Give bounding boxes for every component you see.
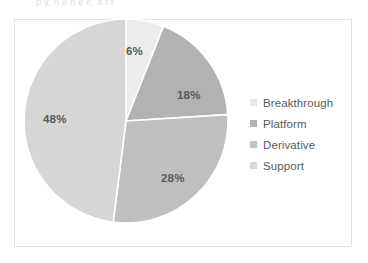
- legend-swatch-icon-support: [250, 162, 257, 169]
- pie-slice-label-support: 48%: [43, 113, 67, 125]
- legend-label-breakthrough: Breakthrough: [263, 97, 333, 109]
- pie-slice-label-derivative: 28%: [161, 172, 185, 184]
- legend-label-support: Support: [263, 160, 304, 172]
- chart-frame: 6% 18% 28% 48% Breakthrough Platform Der…: [14, 19, 352, 247]
- legend-label-platform: Platform: [263, 118, 307, 130]
- legend-swatch-icon-derivative: [250, 141, 257, 148]
- legend-item-support[interactable]: Support: [250, 155, 354, 176]
- legend-swatch-icon-breakthrough: [250, 99, 257, 106]
- pie-slice-derivative[interactable]: [113, 115, 228, 223]
- legend-item-breakthrough[interactable]: Breakthrough: [250, 92, 354, 113]
- pie-slice-label-platform: 18%: [177, 89, 201, 101]
- legend-swatch-icon-platform: [250, 120, 257, 127]
- legend-item-platform[interactable]: Platform: [250, 113, 354, 134]
- clipped-caption-text: p y, n e n e e, a t t: [36, 0, 336, 8]
- pie-chart-plot-area: 6% 18% 28% 48% Breakthrough Platform Der…: [15, 20, 353, 248]
- legend-item-derivative[interactable]: Derivative: [250, 134, 354, 155]
- pie-slice-support[interactable]: [24, 19, 126, 222]
- legend-label-derivative: Derivative: [263, 139, 315, 151]
- pie-slice-label-breakthrough: 6%: [126, 45, 143, 57]
- chart-legend: Breakthrough Platform Derivative Support: [250, 92, 354, 176]
